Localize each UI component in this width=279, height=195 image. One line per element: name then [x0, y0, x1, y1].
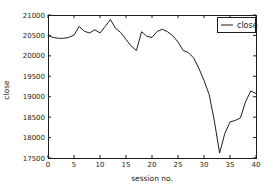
x-tick-label: 0: [46, 161, 50, 169]
legend: close: [218, 18, 258, 33]
axes-border: [48, 15, 256, 158]
y-tick-label: 19000: [23, 93, 45, 101]
x-tick-label: 35: [226, 161, 235, 169]
y-tick-label: 17500: [23, 155, 45, 163]
x-tick-label: 30: [200, 161, 209, 169]
y-tick-label: 20500: [23, 32, 45, 40]
legend-label: close: [237, 21, 258, 30]
x-tick-label: 15: [122, 161, 131, 169]
y-tick-label: 19500: [23, 73, 45, 81]
x-tick-label: 20: [148, 161, 157, 169]
x-tick-label: 40: [252, 161, 261, 169]
close-series-line: [48, 19, 256, 153]
y-axis-label: close: [2, 80, 11, 100]
figure: 0510152025303540 17500180001850019000195…: [0, 0, 279, 195]
y-tick-label: 21000: [23, 12, 45, 20]
x-tick-label: 25: [174, 161, 183, 169]
x-tick-label: 5: [72, 161, 76, 169]
x-axis-label: session no.: [131, 174, 173, 183]
line-chart: 0510152025303540 17500180001850019000195…: [0, 0, 279, 195]
y-tick-label: 18000: [23, 134, 45, 142]
y-axis-ticks: 1750018000185001900019500200002050021000: [23, 12, 256, 163]
x-tick-label: 10: [96, 161, 105, 169]
x-axis-ticks: 0510152025303540: [46, 15, 261, 169]
y-tick-label: 18500: [23, 114, 45, 122]
y-tick-label: 20000: [23, 52, 45, 60]
